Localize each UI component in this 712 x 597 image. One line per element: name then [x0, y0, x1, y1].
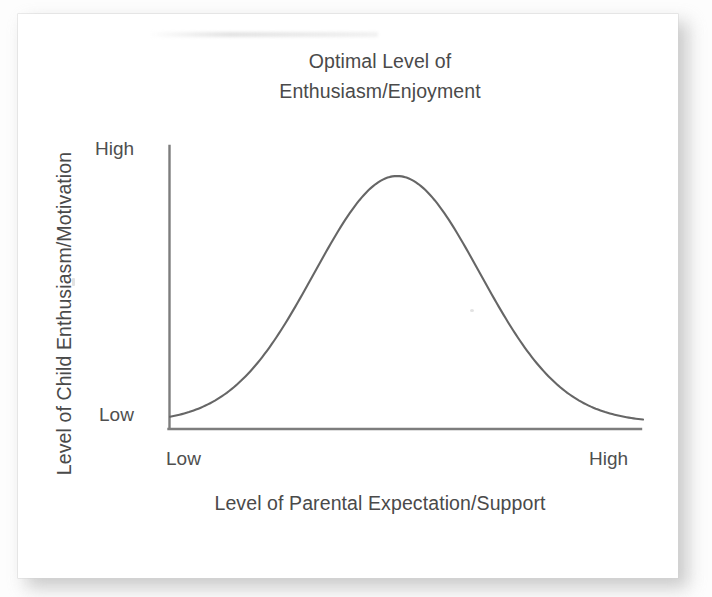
- chart-title: Optimal Level of Enthusiasm/Enjoyment: [180, 46, 580, 106]
- chart-title-line-2: Enthusiasm/Enjoyment: [180, 76, 580, 106]
- y-axis-tick-low: Low: [99, 404, 134, 426]
- paper-fleck: [470, 309, 474, 312]
- x-axis-title: Level of Parental Expectation/Support: [120, 492, 640, 515]
- scanned-figure-page: Optimal Level of Enthusiasm/Enjoyment Le…: [0, 0, 712, 597]
- x-axis-tick-low: Low: [166, 448, 201, 470]
- y-axis-title: Level of Child Enthusiasm/Motivation: [53, 104, 76, 524]
- scan-artifact: [148, 32, 378, 37]
- y-axis-tick-high: High: [95, 138, 134, 160]
- chart-title-line-1: Optimal Level of: [180, 46, 580, 76]
- x-axis-tick-high: High: [589, 448, 628, 470]
